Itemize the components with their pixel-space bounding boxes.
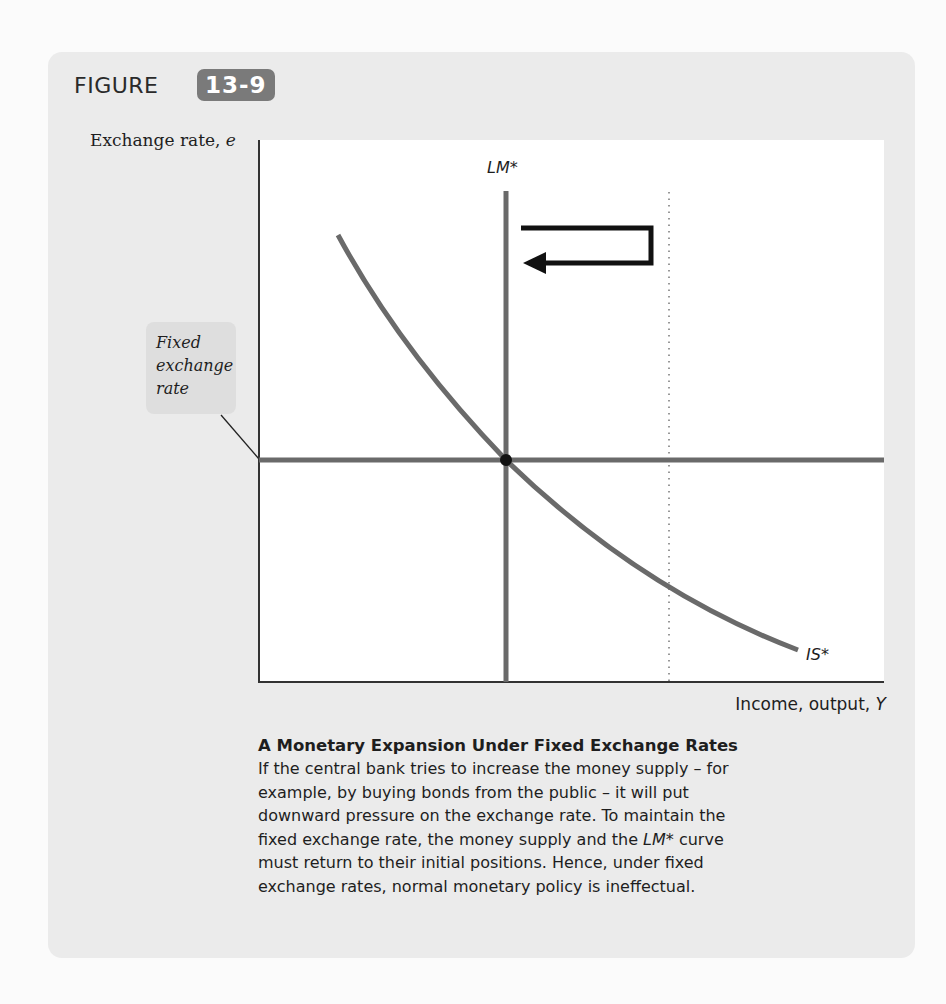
caption-line: example, by buying bonds from the public… — [258, 781, 878, 805]
lm-curve-label: LM* — [487, 158, 518, 177]
x-axis-title: Income, output, Y — [735, 694, 886, 714]
is-curve — [338, 235, 798, 650]
caption-line: downward pressure on the exchange rate. … — [258, 804, 878, 828]
caption-line: must return to their initial positions. … — [258, 851, 878, 875]
caption-line: fixed exchange rate, the money supply an… — [258, 828, 878, 852]
figure-caption: A Monetary Expansion Under Fixed Exchang… — [258, 736, 878, 898]
caption-line: exchange rates, normal monetary policy i… — [258, 875, 878, 899]
is-curve-label: IS* — [806, 645, 829, 664]
caption-line: If the central bank tries to increase th… — [258, 757, 878, 781]
caption-title: A Monetary Expansion Under Fixed Exchang… — [258, 736, 878, 755]
arrowhead-left-icon — [523, 252, 546, 274]
equilibrium-point — [500, 454, 512, 466]
leader-line — [221, 415, 259, 459]
